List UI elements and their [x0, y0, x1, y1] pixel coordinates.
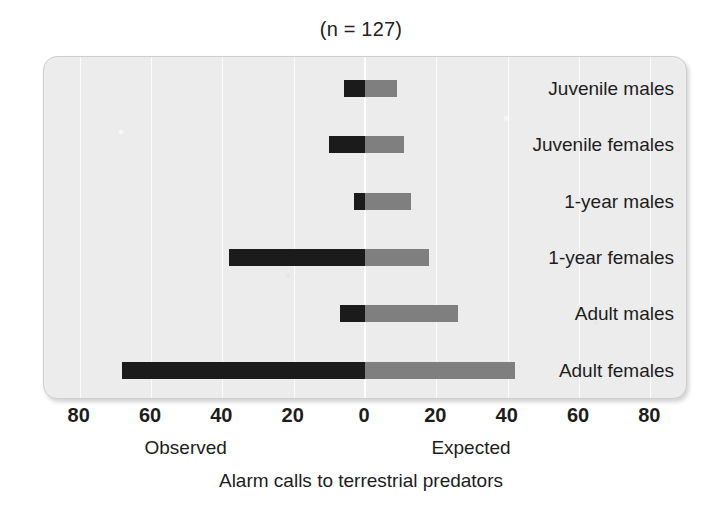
- gridline-80: [650, 57, 651, 398]
- x-tick-label: 80: [619, 404, 679, 427]
- bar-expected: [365, 249, 429, 266]
- gridline-neg20: [294, 57, 295, 398]
- bar-expected: [365, 362, 515, 379]
- chart-figure: (n = 127) Juvenile malesJuvenile females…: [0, 0, 722, 515]
- category-label: 1-year females: [548, 249, 674, 266]
- bar-expected: [365, 193, 411, 210]
- bar-observed: [344, 80, 365, 97]
- x-tick-label: 40: [477, 404, 537, 427]
- bar-observed: [340, 305, 365, 322]
- bar-expected: [365, 136, 404, 153]
- axis-group-label: Observed: [76, 437, 296, 459]
- category-label: 1-year males: [564, 193, 674, 210]
- x-tick-label: 60: [548, 404, 608, 427]
- gridline-60: [579, 57, 580, 398]
- chart-title: (n = 127): [0, 18, 722, 41]
- bar-expected: [365, 80, 397, 97]
- gridline-neg60: [151, 57, 152, 398]
- bar-observed: [354, 193, 365, 210]
- axis-group-label: Expected: [361, 437, 581, 459]
- x-axis-caption: Alarm calls to terrestrial predators: [0, 470, 722, 492]
- gridline-40: [508, 57, 509, 398]
- category-label: Adult males: [575, 305, 674, 322]
- bar-observed: [329, 136, 365, 153]
- bar-observed: [229, 249, 365, 266]
- category-label: Juvenile males: [548, 80, 674, 97]
- bar-expected: [365, 305, 458, 322]
- x-tick-label: 40: [191, 404, 251, 427]
- x-tick-label: 60: [120, 404, 180, 427]
- category-label: Juvenile females: [532, 136, 674, 153]
- plot-panel: Juvenile malesJuvenile females1-year mal…: [43, 56, 687, 399]
- gridline-neg80: [80, 57, 81, 398]
- x-tick-label: 20: [405, 404, 465, 427]
- gridline-neg40: [222, 57, 223, 398]
- category-label: Adult females: [559, 362, 674, 379]
- gridline-20: [436, 57, 437, 398]
- gridline-0: [364, 57, 366, 398]
- x-tick-label: 80: [49, 404, 109, 427]
- bar-observed: [122, 362, 365, 379]
- x-tick-label: 0: [334, 404, 394, 427]
- x-tick-label: 20: [263, 404, 323, 427]
